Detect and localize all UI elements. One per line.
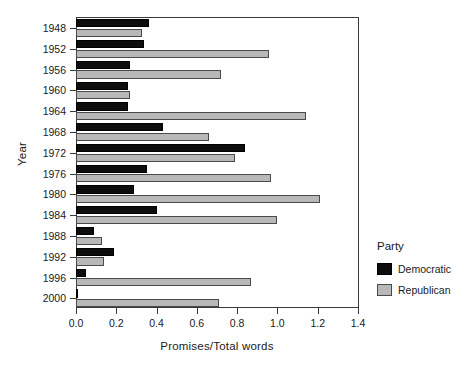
bar-republican-1960 xyxy=(76,91,130,99)
bar-republican-1956 xyxy=(76,70,221,78)
y-tick-1976 xyxy=(70,174,76,175)
y-tick-1960 xyxy=(70,90,76,91)
x-tick-0.0 xyxy=(76,308,77,314)
y-tick-label-1956: 1956 xyxy=(26,65,66,75)
x-tick-label-0.4: 0.4 xyxy=(137,317,177,329)
y-tick-1968 xyxy=(70,132,76,133)
bar-democratic-2000 xyxy=(76,289,78,297)
x-tick-1.0 xyxy=(277,308,278,314)
bar-republican-1952 xyxy=(76,50,269,58)
x-tick-1.4 xyxy=(358,308,359,314)
y-tick-1980 xyxy=(70,194,76,195)
y-tick-1984 xyxy=(70,215,76,216)
y-tick-label-1996: 1996 xyxy=(26,273,66,283)
y-tick-label-1972: 1972 xyxy=(26,148,66,158)
bar-republican-1948 xyxy=(76,29,142,37)
chart-legend: Party DemocraticRepublican xyxy=(377,240,469,305)
y-tick-1972 xyxy=(70,153,76,154)
bar-democratic-1948 xyxy=(76,19,149,27)
y-tick-label-2000: 2000 xyxy=(26,293,66,303)
y-tick-label-1968: 1968 xyxy=(26,127,66,137)
bar-democratic-1972 xyxy=(76,144,245,152)
legend-label-democratic: Democratic xyxy=(398,263,451,275)
y-tick-1992 xyxy=(70,257,76,258)
bar-democratic-1984 xyxy=(76,206,157,214)
y-tick-label-1948: 1948 xyxy=(26,23,66,33)
bar-democratic-1988 xyxy=(76,227,94,235)
chart-figure: Year Promises/Total words 19481952195619… xyxy=(0,0,469,370)
legend-swatch-democratic xyxy=(377,263,392,275)
y-tick-label-1988: 1988 xyxy=(26,231,66,241)
x-tick-label-1.4: 1.4 xyxy=(338,317,378,329)
bar-republican-2000 xyxy=(76,299,219,307)
bar-republican-1976 xyxy=(76,174,271,182)
bar-democratic-1980 xyxy=(76,185,134,193)
x-axis-title: Promises/Total words xyxy=(76,340,358,352)
bar-democratic-1960 xyxy=(76,82,128,90)
x-tick-label-1.0: 1.0 xyxy=(257,317,297,329)
legend-title: Party xyxy=(377,240,469,252)
y-tick-label-1952: 1952 xyxy=(26,44,66,54)
x-tick-0.8 xyxy=(237,308,238,314)
y-tick-label-1984: 1984 xyxy=(26,210,66,220)
y-tick-label-1960: 1960 xyxy=(26,85,66,95)
plot-area xyxy=(76,17,359,308)
y-tick-1964 xyxy=(70,111,76,112)
bar-republican-1972 xyxy=(76,154,235,162)
bar-republican-1992 xyxy=(76,257,104,265)
y-tick-label-1992: 1992 xyxy=(26,252,66,262)
legend-label-republican: Republican xyxy=(398,284,451,296)
y-tick-1956 xyxy=(70,70,76,71)
x-tick-0.6 xyxy=(197,308,198,314)
x-tick-label-1.2: 1.2 xyxy=(298,317,338,329)
bar-democratic-1956 xyxy=(76,61,130,69)
bar-republican-1980 xyxy=(76,195,320,203)
y-tick-1996 xyxy=(70,278,76,279)
legend-swatch-republican xyxy=(377,284,392,296)
y-tick-1988 xyxy=(70,236,76,237)
x-tick-label-0.2: 0.2 xyxy=(96,317,136,329)
y-tick-1948 xyxy=(70,28,76,29)
y-tick-1952 xyxy=(70,49,76,50)
bar-republican-1988 xyxy=(76,237,102,245)
y-tick-label-1980: 1980 xyxy=(26,189,66,199)
x-tick-label-0.6: 0.6 xyxy=(177,317,217,329)
y-tick-label-1964: 1964 xyxy=(26,106,66,116)
y-tick-label-1976: 1976 xyxy=(26,169,66,179)
x-tick-label-0.8: 0.8 xyxy=(217,317,257,329)
bar-republican-1968 xyxy=(76,133,209,141)
x-tick-1.2 xyxy=(318,308,319,314)
bar-republican-1996 xyxy=(76,278,251,286)
bar-democratic-1952 xyxy=(76,40,144,48)
bar-democratic-1976 xyxy=(76,165,147,173)
bar-democratic-1996 xyxy=(76,269,86,277)
bar-democratic-1992 xyxy=(76,248,114,256)
x-tick-0.4 xyxy=(157,308,158,314)
x-tick-label-0.0: 0.0 xyxy=(56,317,96,329)
bar-republican-1964 xyxy=(76,112,306,120)
bar-democratic-1968 xyxy=(76,123,163,131)
x-tick-0.2 xyxy=(116,308,117,314)
y-tick-2000 xyxy=(70,298,76,299)
legend-item-democratic[interactable]: Democratic xyxy=(377,263,469,275)
legend-entries: DemocraticRepublican xyxy=(377,263,469,296)
bar-republican-1984 xyxy=(76,216,277,224)
bar-democratic-1964 xyxy=(76,102,128,110)
legend-item-republican[interactable]: Republican xyxy=(377,284,469,296)
